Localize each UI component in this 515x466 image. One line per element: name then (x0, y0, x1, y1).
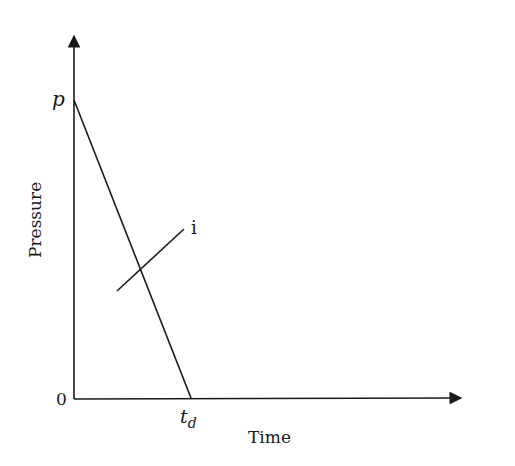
pressure-time-diagram: p 0 i td Time Pressure (0, 0, 515, 466)
x-axis (74, 398, 461, 399)
annotation-line-i (117, 229, 184, 291)
x-axis-title: Time (248, 427, 291, 447)
peak-pressure-label: p (52, 87, 65, 111)
duration-label-sub: d (188, 415, 197, 431)
annotation-label-i: i (191, 217, 197, 238)
origin-label: 0 (56, 389, 67, 409)
duration-label: td (180, 405, 197, 431)
pressure-decay-line (74, 100, 191, 398)
y-axis-title: Pressure (25, 182, 45, 258)
